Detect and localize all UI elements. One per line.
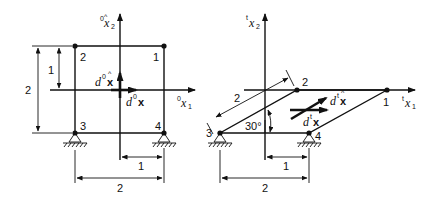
svg-text:2: 2 bbox=[256, 23, 260, 30]
axis-label-x1-left: 0 x 1 bbox=[177, 95, 192, 110]
dim-label-horizontal-total-left: 2 bbox=[117, 182, 123, 194]
vector-label-d0x-hat: d 0 x ^ bbox=[95, 70, 114, 89]
node-1-right bbox=[384, 87, 389, 92]
vector-label-dtx: d t x bbox=[303, 113, 320, 129]
node-label-4-left: 4 bbox=[155, 120, 161, 132]
svg-text:d: d bbox=[95, 75, 102, 89]
svg-text:t: t bbox=[337, 92, 339, 99]
svg-text:0: 0 bbox=[102, 73, 106, 80]
deformation-diagram: 2 1 3 4 0 x ^ 2 0 x 1 bbox=[0, 0, 435, 199]
svg-text:x: x bbox=[180, 96, 187, 110]
dim-label-vertical-total: 2 bbox=[25, 84, 31, 96]
node-label-3-right: 3 bbox=[206, 127, 212, 139]
svg-text:2: 2 bbox=[111, 23, 115, 30]
svg-text:t: t bbox=[310, 113, 312, 120]
svg-text:x: x bbox=[248, 16, 255, 30]
diagram-svg: 2 1 3 4 0 x ^ 2 0 x 1 bbox=[0, 0, 435, 199]
axis-label-x2-right: t x 2 bbox=[246, 14, 260, 30]
vector-label-d0x: d 0 x bbox=[126, 93, 145, 109]
svg-text:0: 0 bbox=[133, 93, 137, 100]
dim-label-inclined-length: 2 bbox=[234, 92, 240, 104]
svg-text:t: t bbox=[402, 95, 404, 102]
axis-label-x2-left: 0 x ^ 2 bbox=[100, 13, 115, 30]
dim-label-vertical-half: 1 bbox=[48, 64, 54, 76]
svg-text:x: x bbox=[138, 96, 145, 108]
svg-text:x: x bbox=[107, 76, 114, 88]
svg-text:x: x bbox=[340, 95, 347, 107]
svg-text:d: d bbox=[330, 94, 337, 108]
angle-label-30: 30° bbox=[245, 120, 262, 132]
dim-label-horizontal-total-right: 2 bbox=[262, 182, 268, 194]
svg-text:1: 1 bbox=[188, 103, 192, 110]
node-label-2-left: 2 bbox=[80, 51, 86, 63]
dim-label-horizontal-half-right: 1 bbox=[283, 160, 289, 172]
node-label-1-right: 1 bbox=[383, 96, 389, 108]
svg-text:d: d bbox=[303, 115, 310, 129]
node-2-left bbox=[72, 43, 77, 48]
axis-label-x1-right: t x 1 bbox=[402, 95, 416, 110]
svg-text:d: d bbox=[126, 95, 133, 109]
dim-inclined-length bbox=[216, 78, 288, 117]
node-label-4-right: 4 bbox=[315, 130, 321, 142]
svg-text:1: 1 bbox=[412, 103, 416, 110]
angle-arc-30 bbox=[268, 110, 271, 132]
svg-text:x: x bbox=[313, 116, 320, 128]
svg-text:x: x bbox=[404, 96, 411, 110]
node-label-2-right: 2 bbox=[302, 76, 308, 88]
node-label-3-left: 3 bbox=[80, 120, 86, 132]
node-1-left bbox=[161, 43, 166, 48]
svg-text:t: t bbox=[246, 14, 248, 21]
node-label-1-left: 1 bbox=[153, 51, 159, 63]
vector-label-dtx-hat: d t x ^ bbox=[330, 89, 347, 108]
node-2-right bbox=[294, 87, 299, 92]
left-panel: 2 1 3 4 0 x ^ 2 0 x 1 bbox=[25, 13, 195, 194]
right-panel: 2 1 3 4 t x 2 t x 1 d bbox=[206, 14, 416, 194]
dim-label-horizontal-half-left: 1 bbox=[138, 160, 144, 172]
